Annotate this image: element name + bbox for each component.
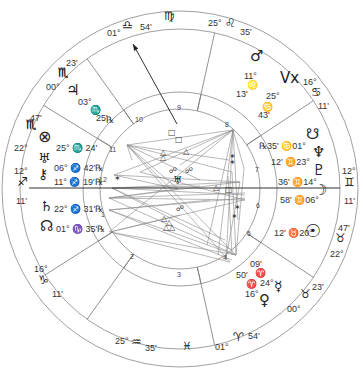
mc-cusp-degree: 01° xyxy=(107,29,121,38)
c12-cusp-minutes: 47' xyxy=(30,114,42,123)
c3-cusp-minutes: 35' xyxy=(145,344,157,353)
north-node-position: 01° ♑ 35'℞ xyxy=(56,225,105,234)
house-number-4: 4 xyxy=(223,254,227,261)
house-number-9: 9 xyxy=(177,104,181,111)
house-number-6: 6 xyxy=(256,202,260,209)
opposition-aspect-icon: ☍ xyxy=(176,205,184,213)
square-aspect-icon: □ xyxy=(175,136,183,144)
c9-cusp-degree: 25° xyxy=(208,19,222,28)
house-number-2: 2 xyxy=(130,253,134,260)
c3-cusp-degree: 25° xyxy=(115,337,129,346)
mc-cusp-sign-icon: ♎ xyxy=(122,19,133,31)
c11-cusp-sign-icon: ♏ xyxy=(58,67,69,79)
venus-icon[interactable]: ♀ xyxy=(259,293,270,308)
midheaven-axis xyxy=(133,44,177,124)
vertex-icon[interactable]: Vx xyxy=(280,71,299,86)
c6-cusp-sign-icon: ♉ xyxy=(335,232,346,244)
dsc-cusp-sign-icon: ♊ xyxy=(344,176,355,188)
chiron-icon[interactable]: ⚷ xyxy=(38,167,48,181)
midheaven-arrow-icon xyxy=(133,44,138,51)
square-aspect-icon: □ xyxy=(225,186,233,194)
c5-cusp-minutes: 23' xyxy=(312,283,324,292)
c11-cusp-degree: 00° xyxy=(46,83,60,92)
aspect-line xyxy=(110,232,236,255)
trine-aspect-icon: △ xyxy=(169,224,175,232)
mars-position: 13' xyxy=(236,90,248,99)
sextile-aspect-icon: ✶ xyxy=(231,213,238,221)
neptune-icon[interactable]: ♆ xyxy=(312,145,325,160)
neptune-position: 12' ♊23° xyxy=(271,158,310,167)
dsc-cusp-minutes: 11' xyxy=(344,197,355,206)
vertex-position: 25° xyxy=(266,92,280,101)
house-number-10: 10 xyxy=(135,116,143,123)
jupiter-position: ℞ xyxy=(106,116,114,125)
aspect-line xyxy=(114,175,178,189)
c8-cusp-minutes: 11' xyxy=(318,102,329,111)
center-planet-cluster-icon: ♅ xyxy=(173,175,183,186)
mercury-position: 24° xyxy=(260,279,274,288)
pluto-position: 36' ♊14° xyxy=(278,178,317,187)
south-node-position: ℞35' ♋01° xyxy=(259,142,306,151)
house-number-8: 8 xyxy=(225,121,229,128)
house-number-11: 11 xyxy=(109,146,116,153)
ic-cusp-degree: 01° xyxy=(215,343,229,352)
north-node-icon[interactable]: ☊ xyxy=(40,219,53,234)
c8-cusp-sign-icon: ♋ xyxy=(311,86,322,98)
house-number-5: 5 xyxy=(247,230,251,237)
house-number-7: 7 xyxy=(255,166,259,173)
aspect-line xyxy=(110,232,230,262)
venus-position: 16° xyxy=(245,290,259,299)
asc-cusp-sign-icon: ♐ xyxy=(17,176,28,188)
uranus-position: 06° ♐ 42'℞ xyxy=(54,164,103,173)
venus-position: ♈ xyxy=(246,280,257,289)
chiron-position: 11° ♐ 19'℞ xyxy=(54,178,103,187)
c11-cusp-minutes: 23' xyxy=(66,59,78,68)
mars-position: ♌ xyxy=(247,81,258,90)
sextile-aspect-icon: ✶ xyxy=(114,175,121,183)
ic-cusp-sign-icon: ♈ xyxy=(233,331,244,343)
trine-aspect-icon: △ xyxy=(213,184,219,192)
c3-cusp-sign-icon: ♒ xyxy=(131,336,142,348)
c6-cusp-minutes: 47' xyxy=(338,224,350,233)
pluto-icon[interactable]: ♇ xyxy=(312,163,325,178)
house-number-12: 12 xyxy=(99,176,107,183)
trine-aspect-icon: △ xyxy=(183,148,189,156)
jupiter-icon[interactable]: ♃ xyxy=(66,83,79,98)
c5-cusp-sign-icon: ♉ xyxy=(300,288,311,300)
c6-cusp-degree: 22° xyxy=(330,250,344,259)
asc-cusp-minutes: 11' xyxy=(16,197,27,206)
mercury-icon[interactable]: ☿ xyxy=(274,279,283,293)
house-number-1: 1 xyxy=(101,211,105,218)
c12-cusp-degree: 22° xyxy=(14,144,28,153)
virgo-sign-icon: ♍ xyxy=(164,10,175,22)
pisces-sign-icon: ♓ xyxy=(182,341,192,352)
sextile-aspect-icon: ✶ xyxy=(229,159,236,167)
trine-aspect-icon: △ xyxy=(160,154,166,162)
south-node-icon[interactable]: ☋ xyxy=(306,127,319,142)
aspect-lines xyxy=(109,130,245,262)
part-of-fortune-icon[interactable]: ⊗ xyxy=(38,129,51,145)
sun-position: 12' ♉20° xyxy=(274,229,313,238)
c9-cusp-sign-icon: ♌ xyxy=(225,17,236,29)
opposition-aspect-icon: ☍ xyxy=(185,167,193,175)
saturn-icon[interactable]: ♄ xyxy=(40,199,53,213)
natal-chart-wheel xyxy=(0,0,363,375)
house-cusp-tick xyxy=(197,94,201,111)
house-cusp-lines xyxy=(44,33,314,345)
uranus-icon[interactable]: ♅ xyxy=(38,151,51,165)
house-cusp-tick xyxy=(197,267,201,284)
c2-cusp-minutes: 11' xyxy=(52,290,63,299)
zodiac-outer-ring xyxy=(2,11,358,367)
house-cusp-tick xyxy=(124,110,134,124)
c2-cusp-sign-icon: ♑ xyxy=(38,274,49,286)
saturn-position: 22° ♐ 31'℞ xyxy=(54,205,103,214)
mc-cusp-minutes: 54' xyxy=(140,23,152,32)
house-number-3: 3 xyxy=(177,271,181,278)
mars-icon[interactable]: ♂ xyxy=(250,49,263,64)
ic-cusp-minutes: 54' xyxy=(248,332,260,341)
moon-position: 58' ♊06° xyxy=(280,196,319,205)
c9-cusp-minutes: 35' xyxy=(240,28,252,37)
mercury-position: ♈ xyxy=(255,269,266,278)
part-of-fortune-position: 25° ♏ 24' xyxy=(56,144,97,153)
c5-cusp-degree: 00° xyxy=(287,305,301,314)
